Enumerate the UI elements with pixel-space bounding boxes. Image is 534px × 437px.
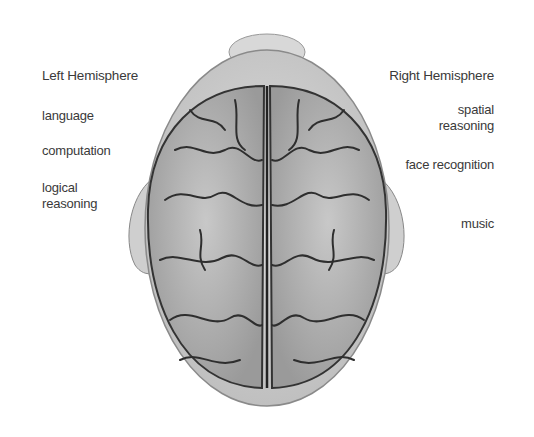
right-function-music: music <box>461 216 494 232</box>
brain-illustration <box>0 0 534 437</box>
left-function-language: language <box>42 108 94 124</box>
right-function-spatial-reasoning: spatial reasoning <box>414 102 494 134</box>
left-function-logical-reasoning: logical reasoning <box>42 180 122 212</box>
left-function-computation: computation <box>42 143 111 159</box>
right-function-face-recognition: face recognition <box>404 157 494 173</box>
left-hemisphere-title: Left Hemisphere <box>42 68 138 84</box>
right-hemisphere-title: Right Hemisphere <box>389 68 494 84</box>
